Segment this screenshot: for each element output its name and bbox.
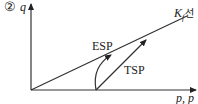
kf-main: K <box>174 6 182 20</box>
figure-number-label: ② <box>4 1 16 13</box>
kf-sub: f <box>182 13 184 22</box>
esp-path <box>95 55 111 90</box>
kf-suffix: 선 <box>185 8 194 19</box>
tsp-label: TSP <box>124 64 145 76</box>
esp-label: ESP <box>92 40 113 52</box>
x-axis-label: p, p <box>176 92 194 104</box>
y-axis-label: q <box>20 1 26 13</box>
kf-line <box>31 16 187 90</box>
kf-line-label: Kf선 <box>174 7 194 24</box>
